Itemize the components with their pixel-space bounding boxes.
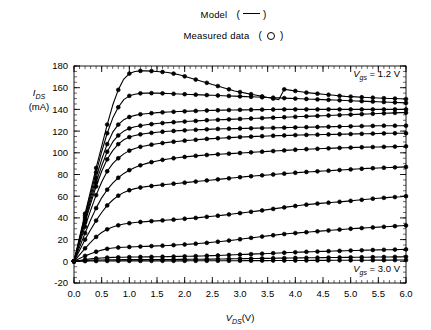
measured-data-point <box>327 169 331 173</box>
measured-data-point <box>360 112 364 116</box>
measured-data-point <box>316 250 320 254</box>
measured-data-point <box>338 258 342 262</box>
measured-data-point <box>338 249 342 253</box>
measured-data-point <box>393 111 397 115</box>
measured-data-point <box>216 136 220 140</box>
measured-data-point <box>338 168 342 172</box>
measured-data-point <box>94 250 98 254</box>
measured-data-point <box>116 142 120 146</box>
measured-data-point <box>183 243 187 247</box>
measured-data-point <box>161 141 165 145</box>
measured-data-point <box>216 177 220 181</box>
y-tick-label: 180 <box>52 60 68 71</box>
x-tick-label: 4.5 <box>316 288 329 299</box>
measured-data-point <box>260 173 264 177</box>
measured-data-point <box>105 142 109 146</box>
measured-data-point <box>227 239 231 243</box>
measured-data-point <box>94 193 98 197</box>
measured-data-point <box>382 166 386 170</box>
measured-data-point <box>116 105 120 109</box>
measured-data-point <box>305 97 309 101</box>
measured-data-point <box>349 108 353 112</box>
measured-data-point <box>305 230 309 234</box>
measured-data-point <box>194 78 198 82</box>
measured-data-point <box>227 213 231 217</box>
annotation-bottom-vgs: Vgs = 3.0 V <box>353 263 400 277</box>
measured-data-point <box>183 217 187 221</box>
measured-data-point <box>161 130 165 134</box>
measured-data-point <box>227 259 231 263</box>
measured-data-point <box>194 259 198 263</box>
measured-data-point <box>139 91 143 95</box>
measured-data-point <box>393 165 397 169</box>
measured-data-point <box>127 259 131 263</box>
y-tick-label: 0 <box>63 256 68 267</box>
measured-data-point <box>183 155 187 159</box>
measured-data-point <box>293 115 297 119</box>
measured-data-point <box>371 258 375 262</box>
measured-data-point <box>105 227 109 231</box>
measured-data-point <box>161 219 165 223</box>
measured-data-point <box>371 132 375 136</box>
measured-data-point <box>371 197 375 201</box>
measured-data-point <box>205 241 209 245</box>
measured-data-point <box>238 135 242 139</box>
measured-data-point <box>205 153 209 157</box>
measured-data-point <box>116 259 120 263</box>
measured-data-point <box>139 69 143 73</box>
y-axis-label-sub: DS <box>35 93 45 100</box>
measured-data-point <box>393 97 397 101</box>
measured-data-point <box>338 200 342 204</box>
measured-data-point <box>161 110 165 114</box>
measured-data-point <box>271 134 275 138</box>
measured-data-point <box>83 238 87 242</box>
measured-data-point <box>338 228 342 232</box>
annotation-top-text: = 1.2 V <box>367 68 401 79</box>
measured-data-point <box>249 259 253 263</box>
measured-data-point <box>238 211 242 215</box>
measured-data-point <box>161 259 165 263</box>
measured-data-point <box>238 259 242 263</box>
measured-data-point <box>293 89 297 93</box>
measured-data-point <box>404 97 408 101</box>
annotation-bottom-text: = 3.0 V <box>367 263 401 274</box>
measured-data-point <box>316 147 320 151</box>
measured-data-point <box>293 126 297 130</box>
measured-data-point <box>94 259 98 263</box>
measured-data-point <box>150 143 154 147</box>
measured-data-point <box>282 172 286 176</box>
measured-data-point <box>305 147 309 151</box>
x-tick-label: 1.5 <box>150 288 163 299</box>
measured-data-point <box>349 227 353 231</box>
measured-data-point <box>227 136 231 140</box>
measured-data-point <box>382 96 386 100</box>
measured-data-point <box>316 202 320 206</box>
measured-data-point <box>139 132 143 136</box>
measured-data-point <box>260 95 264 99</box>
measured-data-point <box>83 254 87 258</box>
measured-data-point <box>305 91 309 95</box>
measured-data-point <box>293 259 297 263</box>
y-tick-label: 140 <box>52 104 68 115</box>
measured-data-point <box>227 127 231 131</box>
measured-data-point <box>216 254 220 258</box>
measured-data-point <box>227 253 231 257</box>
measured-data-point <box>271 207 275 211</box>
measured-data-point <box>216 118 220 122</box>
measured-data-point <box>327 133 331 137</box>
measured-data-point <box>150 244 154 248</box>
measured-data-point <box>238 175 242 179</box>
measured-data-point <box>238 237 242 241</box>
x-tick-label: 5.0 <box>344 288 357 299</box>
measured-data-point <box>404 258 408 262</box>
measured-data-point <box>371 248 375 252</box>
y-tick-label: 120 <box>52 126 68 137</box>
measured-data-point <box>150 184 154 188</box>
measured-data-point <box>271 251 275 255</box>
measured-data-point <box>338 98 342 102</box>
measured-data-point <box>139 163 143 167</box>
measured-data-point <box>216 84 220 88</box>
measured-data-point <box>150 219 154 223</box>
measured-data-point <box>150 69 154 73</box>
x-tick-label: 5.5 <box>372 288 385 299</box>
